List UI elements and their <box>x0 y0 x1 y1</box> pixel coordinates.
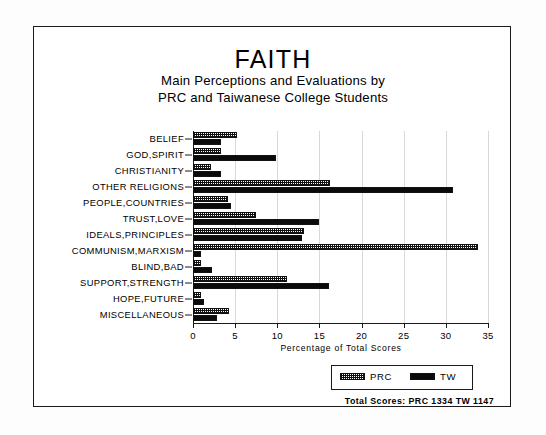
legend-swatch-prc <box>340 373 365 380</box>
bar-tw <box>193 267 212 273</box>
x-tick-label-35: 35 <box>473 330 503 341</box>
bar-tw <box>193 299 204 305</box>
category-tick <box>185 235 192 236</box>
bar-group: BELIEF <box>193 132 488 146</box>
bar-prc <box>193 308 229 314</box>
bar-prc <box>193 164 211 170</box>
plot-area: BELIEFGOD,SPIRITCHRISTIANITYOTHER RELIGI… <box>193 131 488 323</box>
bar-tw <box>193 187 453 193</box>
bar-group: CHRISTIANITY <box>193 164 488 178</box>
category-tick <box>185 219 192 220</box>
category-label: HOPE,FUTURE <box>113 294 184 303</box>
x-tick-25 <box>404 323 405 328</box>
bar-group: COMMUNISM,MARXISM <box>193 244 488 258</box>
legend-label-prc: PRC <box>370 371 392 382</box>
bar-group: TRUST,LOVE <box>193 212 488 226</box>
x-tick-15 <box>319 323 320 328</box>
category-label: OTHER RELIGIONS <box>92 182 184 191</box>
bar-tw <box>193 283 329 289</box>
bar-tw <box>193 219 319 225</box>
category-label: BLIND,BAD <box>131 262 184 271</box>
bar-tw <box>193 235 302 241</box>
x-tick-0 <box>193 323 194 328</box>
x-tick-label-25: 25 <box>389 330 419 341</box>
bar-group: GOD,SPIRIT <box>193 148 488 162</box>
category-tick <box>185 299 192 300</box>
x-axis-label: Percentage of Total Scores <box>193 343 489 353</box>
bar-prc <box>193 148 221 154</box>
bar-group: SUPPORT,STRENGTH <box>193 276 488 290</box>
bar-prc <box>193 228 304 234</box>
category-label: IDEALS,PRINCIPLES <box>86 230 184 239</box>
bar-group: OTHER RELIGIONS <box>193 180 488 194</box>
bar-prc <box>193 132 237 138</box>
category-tick <box>185 267 192 268</box>
category-label: PEOPLE,COUNTRIES <box>83 198 184 207</box>
bar-tw <box>193 203 231 209</box>
chart-legend: PRC TW <box>331 365 473 390</box>
category-tick <box>185 283 192 284</box>
bar-prc <box>193 212 256 218</box>
category-tick <box>185 315 192 316</box>
bar-prc <box>193 260 201 266</box>
bar-tw <box>193 139 221 145</box>
x-tick-10 <box>277 323 278 328</box>
x-tick-label-10: 10 <box>262 330 292 341</box>
legend-swatch-tw <box>410 373 435 380</box>
category-tick <box>185 155 192 156</box>
bar-prc <box>193 244 478 250</box>
chart-figure: FAITH Main Perceptions and Evaluations b… <box>0 0 546 435</box>
bar-tw <box>193 155 276 161</box>
bar-group: IDEALS,PRINCIPLES <box>193 228 488 242</box>
x-tick-label-30: 30 <box>431 330 461 341</box>
category-tick <box>185 171 192 172</box>
chart-subtitle-line2: PRC and Taiwanese College Students <box>34 90 512 105</box>
bar-tw <box>193 251 201 257</box>
category-tick <box>185 139 192 140</box>
bar-prc <box>193 180 330 186</box>
x-tick-label-5: 5 <box>220 330 250 341</box>
category-label: CHRISTIANITY <box>115 166 184 175</box>
category-label: COMMUNISM,MARXISM <box>72 246 184 255</box>
gridline-35 <box>488 131 489 323</box>
category-label: TRUST,LOVE <box>123 214 184 223</box>
x-tick-30 <box>446 323 447 328</box>
bar-prc <box>193 196 228 202</box>
category-tick <box>185 187 192 188</box>
bar-tw <box>193 171 221 177</box>
category-label: MISCELLANEOUS <box>100 310 184 319</box>
chart-title: FAITH <box>34 45 512 74</box>
x-axis-line <box>193 323 489 324</box>
bar-group: BLIND,BAD <box>193 260 488 274</box>
x-tick-5 <box>235 323 236 328</box>
chart-subtitle-line1: Main Perceptions and Evaluations by <box>34 73 512 88</box>
bar-group: PEOPLE,COUNTRIES <box>193 196 488 210</box>
chart-frame: FAITH Main Perceptions and Evaluations b… <box>33 26 511 407</box>
x-tick-35 <box>488 323 489 328</box>
bar-prc <box>193 292 201 298</box>
x-tick-label-15: 15 <box>304 330 334 341</box>
bar-group: MISCELLANEOUS <box>193 308 488 322</box>
x-tick-20 <box>362 323 363 328</box>
x-tick-label-0: 0 <box>178 330 208 341</box>
category-tick <box>185 203 192 204</box>
category-label: BELIEF <box>150 134 184 143</box>
category-tick <box>185 251 192 252</box>
totals-note: Total Scores: PRC 1334 TW 1147 <box>34 396 494 406</box>
bar-tw <box>193 315 217 321</box>
bar-prc <box>193 276 287 282</box>
legend-label-tw: TW <box>440 371 456 382</box>
x-tick-label-20: 20 <box>347 330 377 341</box>
category-label: SUPPORT,STRENGTH <box>80 278 184 287</box>
bar-group: HOPE,FUTURE <box>193 292 488 306</box>
category-label: GOD,SPIRIT <box>126 150 184 159</box>
